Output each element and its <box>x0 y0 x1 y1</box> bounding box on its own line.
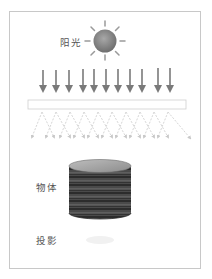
label-projection: 投影 <box>36 233 57 247</box>
projection-shadow <box>86 236 114 244</box>
incident-arrows <box>43 68 170 89</box>
label-sunlight: 阳光 <box>60 35 81 49</box>
scattered-rays <box>32 112 190 138</box>
sun-icon <box>85 21 125 60</box>
label-object: 物体 <box>36 180 57 194</box>
diffuser-plate <box>28 100 186 109</box>
cylinder-object <box>69 160 131 219</box>
diagram-canvas <box>0 0 212 279</box>
